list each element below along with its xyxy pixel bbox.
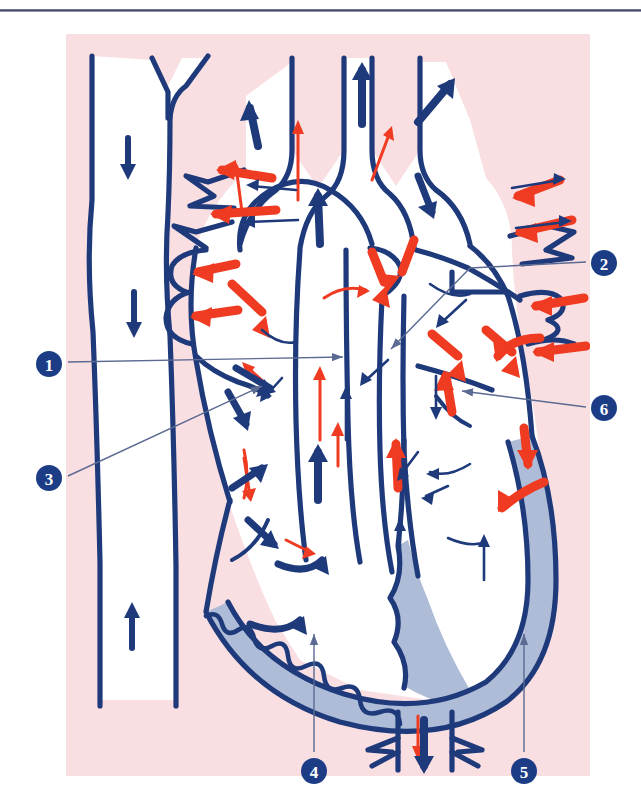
callout-4[interactable]: 4 <box>301 758 327 784</box>
callout-1-label: 1 <box>45 356 54 375</box>
callout-4-label: 4 <box>310 763 319 782</box>
callout-1[interactable]: 1 <box>36 351 62 377</box>
callout-2[interactable]: 2 <box>591 250 617 276</box>
figure-page: 1 2 3 4 5 6 <box>0 0 641 810</box>
callout-2-label: 2 <box>600 255 609 274</box>
callout-3-label: 3 <box>45 470 54 489</box>
callout-3[interactable]: 3 <box>36 465 62 491</box>
callout-5-label: 5 <box>520 763 529 782</box>
callout-6[interactable]: 6 <box>591 395 617 421</box>
heart-diagram: 1 2 3 4 5 6 <box>0 0 641 810</box>
callout-5[interactable]: 5 <box>511 758 537 784</box>
callout-6-label: 6 <box>600 400 609 419</box>
